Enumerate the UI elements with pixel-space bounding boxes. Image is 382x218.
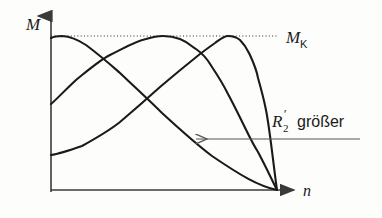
figure-canvas: M n M K R 2 ′ größer bbox=[0, 0, 382, 218]
breakdown-torque-main: M bbox=[285, 28, 301, 47]
rotor-resistance-subscript: 2 bbox=[283, 122, 289, 134]
x-axis-label: n bbox=[303, 182, 311, 199]
y-axis-label: M bbox=[25, 15, 41, 34]
rotor-resistance-prime: ′ bbox=[283, 106, 286, 121]
figure-background bbox=[0, 0, 382, 218]
breakdown-torque-subscript: K bbox=[300, 38, 308, 50]
rotor-resistance-text: größer bbox=[297, 113, 345, 130]
rotor-resistance-main: R bbox=[271, 112, 283, 131]
torque-speed-curve-figure: M n M K R 2 ′ größer bbox=[0, 0, 382, 218]
